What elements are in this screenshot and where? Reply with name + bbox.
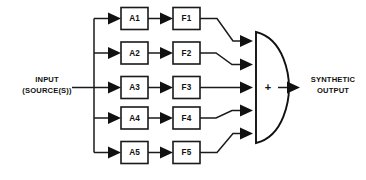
amp-in-arrow-1: [108, 13, 121, 25]
input-bus-group: [72, 13, 121, 159]
amp-in-arrow-2: [108, 47, 121, 59]
filter-in-arrow-4: [160, 112, 173, 124]
filter-label-5: F5: [182, 148, 192, 157]
summer-input-wire-5: [200, 134, 243, 153]
summer-plus-sign: +: [265, 81, 271, 93]
filter-to-summer-connectors: [200, 19, 253, 153]
input-label-line1: INPUT: [35, 75, 59, 84]
amp-in-arrow-3: [108, 82, 121, 94]
amp-to-filter-connectors: [148, 13, 173, 159]
summer-in-arrow-4: [240, 105, 253, 117]
summer-input-wire-2: [200, 53, 243, 65]
amp-in-arrow-5: [108, 147, 121, 159]
summer-in-arrow-5: [240, 128, 253, 140]
summer-input-wire-4: [200, 111, 243, 119]
amplifier-column: A1 A2 A3 A4 A5: [121, 8, 148, 164]
amp-in-arrow-4: [108, 112, 121, 124]
amplifier-label-4: A4: [129, 114, 140, 123]
summer-in-arrow-1: [240, 35, 253, 47]
amplifier-label-2: A2: [129, 49, 140, 58]
summer-in-arrow-3: [240, 82, 253, 94]
filter-column: F1 F2 F3 F4 F5: [173, 8, 200, 164]
output-arrow-icon: [287, 82, 300, 94]
output-label-line1: SYNTHETIC: [311, 75, 356, 84]
filter-in-arrow-3: [160, 82, 173, 94]
input-label-line2: (SOURCE(S)): [22, 86, 72, 95]
summer-in-arrow-2: [240, 59, 253, 71]
block-diagram-svg: INPUT (SOURCE(S)) A1 A2: [0, 0, 366, 180]
output-label-line2: OUTPUT: [317, 86, 349, 95]
block-diagram-canvas: INPUT (SOURCE(S)) A1 A2: [0, 0, 366, 180]
summer-input-wire-1: [200, 19, 243, 42]
filter-label-4: F4: [182, 114, 192, 123]
filter-in-arrow-5: [160, 147, 173, 159]
filter-in-arrow-2: [160, 47, 173, 59]
filter-label-3: F3: [182, 83, 192, 92]
filter-label-1: F1: [182, 14, 192, 23]
filter-label-2: F2: [182, 49, 192, 58]
filter-in-arrow-1: [160, 13, 173, 25]
amplifier-label-5: A5: [129, 148, 140, 157]
amplifier-label-3: A3: [129, 83, 140, 92]
amplifier-label-1: A1: [129, 14, 140, 23]
